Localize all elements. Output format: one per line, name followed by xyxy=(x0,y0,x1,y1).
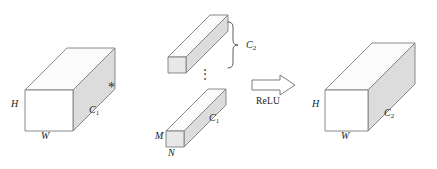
convolution-relu-diagram: H W C1 * ⋮ C2 M N C1 ReLU H W C2 xyxy=(0,0,437,169)
relu-label: ReLU xyxy=(256,96,280,106)
filter-count-label: C2 xyxy=(246,40,256,52)
filter-rod-top-frontface xyxy=(168,57,186,73)
output-tensor-width-label: W xyxy=(341,131,349,141)
output-tensor-depth-letter: C xyxy=(384,107,391,118)
convolution-operator: * xyxy=(108,81,115,95)
filter-depth-letter: C xyxy=(209,112,216,123)
input-tensor-width-label: W xyxy=(41,131,49,141)
filter-count-brace xyxy=(228,22,238,68)
input-tensor-depth-letter: C xyxy=(89,104,96,115)
input-tensor-depth-label: C1 xyxy=(89,105,99,117)
output-tensor-front-face xyxy=(325,90,368,131)
filter-depth-label: C1 xyxy=(209,113,219,125)
filter-count-letter: C xyxy=(246,39,253,50)
filter-rod-bottom-frontface xyxy=(166,131,184,147)
filter-depth-subscript: 1 xyxy=(216,117,220,125)
filters-ellipsis: ⋮ xyxy=(199,68,211,80)
filter-count-subscript: 2 xyxy=(253,44,257,52)
input-tensor-height-label: H xyxy=(11,99,18,109)
output-tensor-depth-subscript: 2 xyxy=(391,112,395,120)
input-tensor-front-face xyxy=(25,90,73,131)
input-tensor-shape xyxy=(25,48,115,131)
diagram-canvas xyxy=(0,0,437,169)
output-tensor-height-label: H xyxy=(312,99,319,109)
relu-arrow-icon xyxy=(252,75,295,95)
filter-rod-top-shape xyxy=(168,15,228,73)
filter-height-label: M xyxy=(155,131,163,141)
input-tensor-depth-subscript: 1 xyxy=(96,109,100,117)
output-tensor-depth-label: C2 xyxy=(384,108,394,120)
output-tensor-shape xyxy=(325,43,415,131)
filter-width-label: N xyxy=(168,148,175,158)
